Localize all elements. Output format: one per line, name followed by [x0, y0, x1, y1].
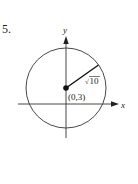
x-axis-arrow-icon [111, 101, 119, 106]
center-label: (0,3) [68, 92, 85, 102]
x-axis-label: x [120, 100, 125, 110]
radius-symbol: √ [85, 78, 89, 86]
circle-diagram: x y √ 10 (0,3) [0, 0, 138, 184]
radius-radicand: 10 [90, 76, 100, 86]
y-axis-arrow-icon [63, 36, 68, 44]
y-axis-label: y [62, 25, 67, 35]
center-point [63, 85, 69, 91]
